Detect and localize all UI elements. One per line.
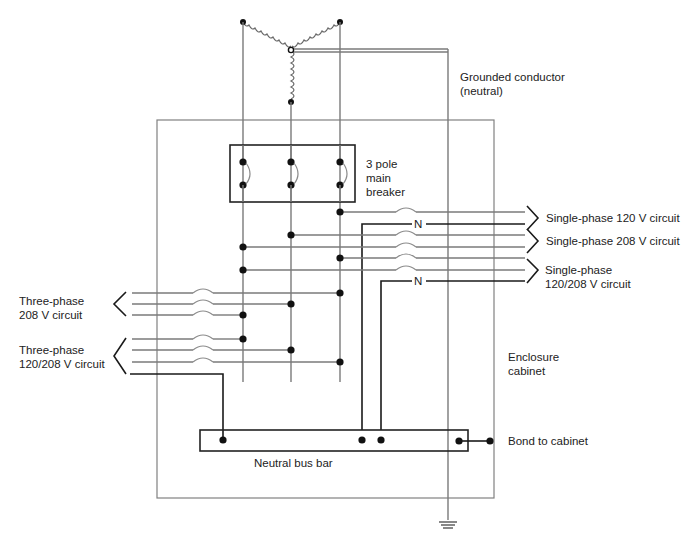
main-breaker xyxy=(230,145,355,202)
neutral-bus-bar-label: Neutral bus bar xyxy=(254,456,333,470)
right-circuits: N N xyxy=(239,206,538,430)
three-phase-208-label: Three-phase 208 V circuit xyxy=(19,294,84,322)
ground-icon xyxy=(439,522,457,528)
main-breaker-label: 3 pole main breaker xyxy=(366,157,405,199)
svg-text:N: N xyxy=(414,218,422,230)
enclosure-cabinet-label: Enclosure cabinet xyxy=(508,350,559,378)
svg-text:N: N xyxy=(414,275,422,287)
grounded-conductor-label: Grounded conductor (neutral) xyxy=(460,70,565,98)
three-phase-120-208-label: Three-phase 120/208 V circuit xyxy=(19,343,105,371)
left-circuits xyxy=(114,289,344,440)
neutral-bus-bar xyxy=(200,430,494,451)
wye-transformer xyxy=(240,19,343,105)
single-phase-208-label: Single-phase 208 V circuit xyxy=(546,234,680,248)
enclosure-cabinet xyxy=(157,120,494,498)
bond-point xyxy=(486,437,493,444)
bond-to-cabinet-label: Bond to cabinet xyxy=(508,434,588,448)
single-phase-120-label: Single-phase 120 V circuit xyxy=(546,211,680,225)
single-phase-120-208-label: Single-phase 120/208 V circuit xyxy=(545,263,631,291)
neutral-point xyxy=(288,47,293,52)
